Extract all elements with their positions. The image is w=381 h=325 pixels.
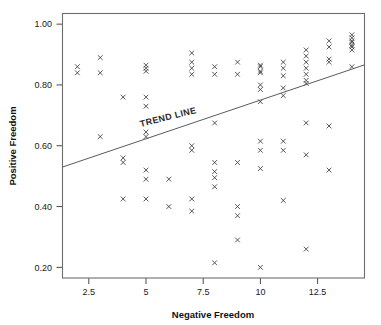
y-axis-label: Positive Freedom [7, 106, 18, 185]
x-tick-label: 10 [255, 287, 265, 297]
scatter-plot-figure: 0.200.400.600.801.00 2.557.51012.5 TREND… [0, 0, 381, 325]
y-tick-label: 0.60 [34, 141, 52, 151]
y-tick-label: 0.20 [34, 263, 52, 273]
x-tick-label: 5 [143, 287, 148, 297]
y-tick-label: 0.40 [34, 202, 52, 212]
x-tick-label: 7.5 [197, 287, 210, 297]
figure-background [0, 0, 381, 325]
x-axis-label: Negative Freedom [172, 309, 254, 320]
x-tick-label: 12.5 [309, 287, 327, 297]
y-tick-label: 1.00 [34, 19, 52, 29]
plot-canvas: 0.200.400.600.801.00 2.557.51012.5 TREND… [0, 0, 381, 325]
y-tick-label: 0.80 [34, 80, 52, 90]
x-tick-label: 2.5 [83, 287, 96, 297]
